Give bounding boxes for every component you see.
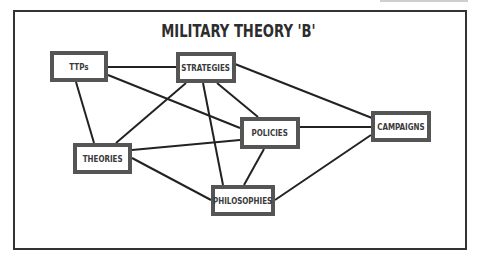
edge-policies-philosophies bbox=[244, 149, 264, 185]
edge-theories-policies bbox=[132, 140, 240, 150]
node-campaigns: CAMPAIGNS bbox=[371, 111, 431, 142]
node-philosophies: PHILOSOPHIES bbox=[211, 185, 275, 216]
node-strategies: STRATEGIES bbox=[176, 52, 236, 83]
diagram-title: MILITARY THEORY 'B' bbox=[161, 21, 299, 41]
node-policies: POLICIES bbox=[240, 117, 300, 149]
edge-strategies-philosophies bbox=[203, 83, 223, 185]
node-policies-label: POLICIES bbox=[252, 128, 288, 138]
edge-strategies-campaigns bbox=[235, 64, 372, 118]
node-philosophies-label: PHILOSOPHIES bbox=[213, 196, 272, 206]
node-ttps: TTPs bbox=[50, 51, 108, 82]
node-theories-label: THEORIES bbox=[83, 154, 123, 164]
node-campaigns-label: CAMPAIGNS bbox=[377, 122, 424, 132]
edge-strategies-policies bbox=[217, 83, 258, 117]
edge-ttps-theories bbox=[76, 82, 94, 143]
edge-theories-philosophies bbox=[132, 158, 211, 200]
node-strategies-label: STRATEGIES bbox=[182, 63, 231, 73]
node-ttps-label: TTPs bbox=[69, 62, 88, 72]
node-theories: THEORIES bbox=[73, 143, 132, 174]
